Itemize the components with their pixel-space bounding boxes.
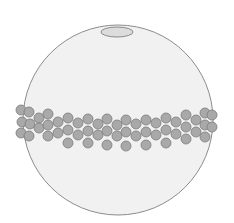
bead (73, 118, 83, 128)
bead (93, 130, 103, 140)
bead (200, 132, 210, 142)
bead (53, 128, 63, 138)
diagram-canvas (0, 0, 234, 223)
bead (43, 109, 53, 119)
polar-cap (101, 27, 133, 37)
bead (191, 115, 201, 125)
bead (207, 110, 217, 120)
bead (151, 118, 161, 128)
bead (93, 119, 103, 129)
bead (112, 120, 122, 130)
bead (102, 140, 112, 150)
bead (63, 138, 73, 148)
bead (181, 122, 191, 132)
bead (43, 131, 53, 141)
bead (121, 127, 131, 137)
bead (181, 134, 191, 144)
bead (141, 140, 151, 150)
bead (171, 129, 181, 139)
bead (131, 131, 141, 141)
bead (63, 125, 73, 135)
bead (43, 120, 53, 130)
bead (53, 117, 63, 127)
bead (171, 117, 181, 127)
bead (161, 125, 171, 135)
bead (121, 141, 131, 151)
bead (24, 107, 34, 117)
bead (73, 130, 83, 140)
bead (141, 127, 151, 137)
bead (83, 126, 93, 136)
bead (102, 114, 112, 124)
bead (207, 122, 217, 132)
bead (83, 138, 93, 148)
bead (161, 113, 171, 123)
bead (63, 113, 73, 123)
bead (161, 138, 171, 148)
bead (34, 113, 44, 123)
bead (112, 131, 122, 141)
bead (25, 119, 35, 129)
bead (191, 127, 201, 137)
bead (102, 126, 112, 136)
bead (121, 115, 131, 125)
bead (131, 119, 141, 129)
bead (181, 110, 191, 120)
bead (83, 114, 93, 124)
bead (151, 130, 161, 140)
cell-diagram (0, 0, 234, 223)
bead (141, 115, 151, 125)
bead (24, 131, 34, 141)
bead (34, 123, 44, 133)
